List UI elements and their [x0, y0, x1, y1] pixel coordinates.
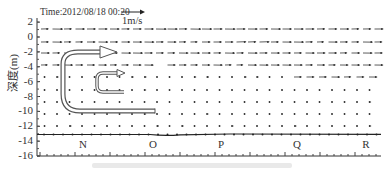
station-label-q: Q: [293, 139, 301, 150]
station-label-r: R: [362, 139, 369, 150]
y-tick-label: -8: [3, 91, 33, 102]
velocity-profile-chart: [0, 0, 391, 174]
figure-caption-blurred: [92, 163, 292, 168]
small-curved-arrow-icon: [97, 70, 125, 93]
chart-title: Time:2012/08/18 00:20: [40, 7, 130, 18]
scale-label: 1m/s: [122, 15, 142, 26]
station-label-p: P: [218, 139, 224, 150]
y-tick-label: -4: [3, 61, 33, 72]
y-tick-label: -10: [3, 105, 33, 116]
y-tick-label: 2: [3, 16, 33, 27]
y-tick-label: -2: [3, 46, 33, 57]
y-tick-label: -16: [3, 150, 33, 161]
y-tick-label: -12: [3, 120, 33, 131]
x-axis-ticks: [40, 152, 376, 156]
station-label-n: N: [79, 139, 87, 150]
y-tick-label: -14: [3, 135, 33, 146]
station-label-o: O: [149, 139, 157, 150]
large-curved-arrow-icon: [63, 46, 155, 114]
y-tick-label: -6: [3, 76, 33, 87]
y-tick-label: 0: [3, 31, 33, 42]
